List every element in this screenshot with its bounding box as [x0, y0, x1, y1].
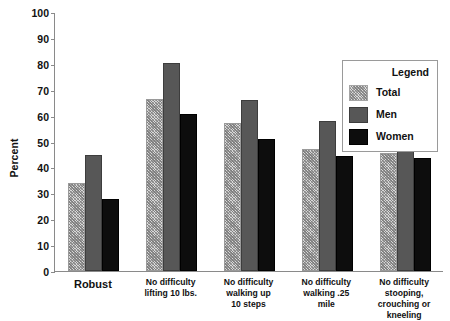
x-axis-label: No difficulty walking up 10 steps [208, 277, 290, 310]
legend-label: Women [376, 130, 414, 142]
y-axis-tick-label: 30 [9, 189, 49, 200]
y-axis-title: Percent [8, 118, 20, 198]
x-axis-label: No difficulty lifting 10 lbs. [130, 277, 212, 299]
y-axis-tick-label: 100 [9, 8, 49, 19]
y-axis-tick-label: 70 [9, 85, 49, 96]
x-axis-label: No difficulty stooping, crouching or kne… [363, 277, 445, 321]
x-axis-label: No difficulty walking .25 mile [285, 277, 367, 310]
bar-total [380, 153, 397, 271]
y-axis-tick-label: 0 [9, 267, 49, 278]
legend-label: Men [376, 108, 397, 120]
legend-label: Total [376, 86, 400, 98]
legend-swatch-women-icon [349, 129, 368, 145]
y-axis-tick-label: 90 [9, 34, 49, 45]
legend-swatch-men-icon [349, 107, 368, 123]
y-axis-tick-label: 20 [9, 215, 49, 226]
legend-swatch-total-icon [349, 85, 368, 101]
y-axis-tick-label: 10 [9, 241, 49, 252]
legend: Legend TotalMenWomen [342, 60, 438, 152]
y-axis-tick-label: 50 [9, 137, 49, 148]
y-axis-tick-mark [51, 272, 55, 273]
legend-title: Legend [392, 66, 429, 78]
y-axis-tick-label: 40 [9, 163, 49, 174]
bar-men [397, 132, 414, 271]
y-axis-tick-label: 80 [9, 60, 49, 71]
bar-women [414, 158, 431, 271]
x-axis-label: Robust [52, 278, 134, 292]
y-axis-tick-label: 60 [9, 111, 49, 122]
